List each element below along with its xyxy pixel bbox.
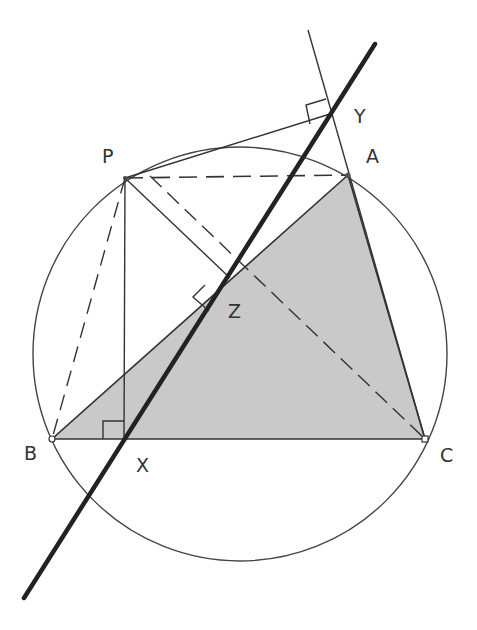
right-angle-y xyxy=(306,99,326,124)
diagram-canvas: P A Y Z B X C xyxy=(0,0,477,630)
label-p: P xyxy=(102,145,113,167)
point-a-marker xyxy=(346,173,351,178)
label-x: X xyxy=(136,454,149,476)
point-b-marker xyxy=(49,436,55,442)
label-c: C xyxy=(440,444,453,466)
label-y: Y xyxy=(353,105,366,127)
segment-pz xyxy=(125,178,230,278)
simson-line-diagram: P A Y Z B X C xyxy=(0,0,477,630)
label-z: Z xyxy=(228,300,241,322)
segment-pa-dashed xyxy=(125,175,348,178)
point-c-marker xyxy=(422,436,428,442)
segment-py xyxy=(125,114,330,178)
label-a: A xyxy=(366,145,379,167)
point-p-marker xyxy=(123,176,127,180)
label-b: B xyxy=(24,442,37,464)
segment-px xyxy=(124,178,125,439)
